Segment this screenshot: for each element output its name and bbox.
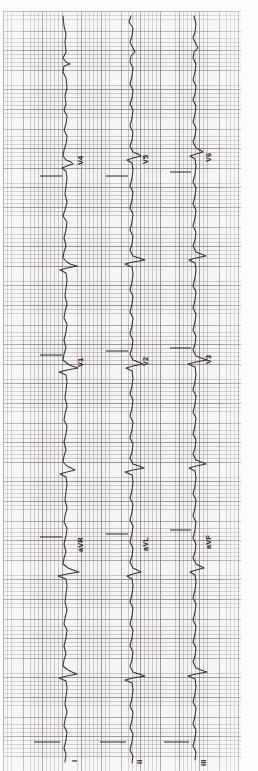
lead-label-ii: II	[135, 760, 144, 764]
lead-label-v5: V5	[141, 155, 150, 164]
lead-label-avf: aVF	[204, 535, 213, 549]
lead-label-v2: V2	[141, 357, 150, 366]
lead-label-v4: V4	[76, 156, 85, 165]
lead-label-avl: aVL	[141, 537, 150, 551]
ecg-graph-paper	[3, 11, 241, 771]
lead-label-avr: aVR	[76, 537, 85, 552]
lead-label-i: I	[70, 760, 79, 762]
lead-label-iii: III	[199, 760, 208, 766]
lead-label-v1: V1	[76, 358, 85, 367]
lead-label-v6: V6	[204, 153, 213, 162]
lead-label-v3: V3	[204, 355, 213, 364]
ecg-page: V4 V5 V6 V1 V2 V3 aVR aVL aVF I II III	[0, 0, 258, 771]
